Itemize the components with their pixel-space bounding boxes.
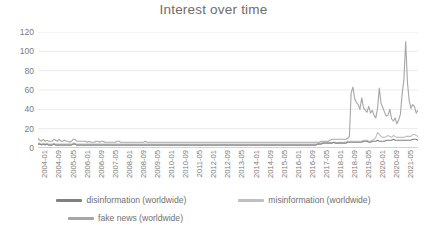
x-axis-tick-label: 2004-09	[55, 150, 63, 178]
x-axis-tick-label: 2019-05	[365, 150, 373, 178]
x-axis-tick-label: 2009-05	[154, 150, 162, 178]
x-axis-tick-label: 2014-09	[267, 150, 275, 178]
x-axis: 2004-012004-092005-052006-012006-092007-…	[38, 150, 418, 194]
legend-spacer	[194, 196, 230, 205]
x-axis-tick-label: 2020-09	[393, 150, 401, 178]
x-axis-tick-label: 2010-09	[182, 150, 190, 178]
plot-area	[38, 32, 418, 148]
x-axis-tick-label: 2004-01	[41, 150, 49, 178]
x-axis-tick-label: 2020-01	[379, 150, 387, 178]
chart-plot-svg	[38, 32, 418, 148]
x-axis-tick-label: 2012-09	[224, 150, 232, 178]
x-axis-tick-label: 2017-05	[323, 150, 331, 178]
y-axis-tick-label: 60	[25, 86, 34, 95]
x-axis-tick-label: 2016-01	[295, 150, 303, 178]
x-axis-tick-label: 2008-01	[126, 150, 134, 178]
y-axis-tick-label: 80	[25, 66, 34, 75]
x-axis-tick-label: 2005-05	[70, 150, 78, 178]
legend-item-label: misinformation (worldwide)	[268, 196, 370, 205]
legend-row-secondary: fake news (worldwide)	[0, 214, 427, 223]
legend-row-primary: disinformation (worldwide)misinformation…	[0, 196, 427, 205]
y-axis-tick-label: 120	[20, 28, 34, 37]
chart-title: Interest over time	[0, 2, 427, 17]
legend-item[interactable]: misinformation (worldwide)	[238, 196, 370, 205]
x-axis-tick-label: 2018-09	[351, 150, 359, 178]
legend-item[interactable]: fake news (worldwide)	[68, 214, 183, 223]
legend-item[interactable]: disinformation (worldwide)	[56, 196, 186, 205]
x-axis-tick-label: 2010-01	[168, 150, 176, 178]
legend-item-label: fake news (worldwide)	[98, 214, 183, 223]
x-axis-tick-label: 2021-05	[407, 150, 415, 178]
x-axis-tick-label: 2006-01	[84, 150, 92, 178]
x-axis-tick-label: 2006-09	[98, 150, 106, 178]
x-axis-tick-label: 2014-01	[253, 150, 261, 178]
y-axis-tick-label: 40	[25, 105, 34, 114]
y-axis-tick-label: 20	[25, 124, 34, 133]
x-axis-tick-label: 2013-05	[238, 150, 246, 178]
chart-legend: disinformation (worldwide)misinformation…	[0, 196, 427, 241]
x-axis-tick-label: 2012-01	[210, 150, 218, 178]
y-axis-tick-label: 100	[20, 47, 34, 56]
legend-color-swatch	[238, 199, 264, 202]
series-line	[38, 42, 418, 143]
x-axis-tick-label: 2016-09	[309, 150, 317, 178]
legend-color-swatch	[56, 199, 82, 202]
legend-color-swatch	[68, 217, 94, 220]
y-axis: 020406080100120	[0, 32, 34, 148]
x-axis-tick-label: 2015-05	[281, 150, 289, 178]
x-axis-tick-label: 2018-01	[337, 150, 345, 178]
y-axis-tick-label: 0	[29, 144, 34, 153]
chart-container: Interest over time 020406080100120 2004-…	[0, 0, 427, 243]
x-axis-tick-label: 2008-09	[140, 150, 148, 178]
x-axis-tick-label: 2011-05	[196, 150, 204, 177]
x-axis-tick-label: 2007-05	[112, 150, 120, 178]
legend-item-label: disinformation (worldwide)	[86, 196, 186, 205]
